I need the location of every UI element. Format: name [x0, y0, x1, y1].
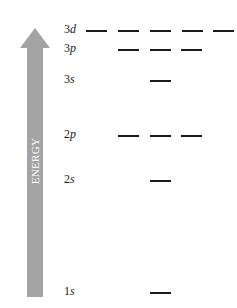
level-label-2p: 2p: [64, 128, 76, 140]
orbital-line-2p: [118, 135, 139, 137]
level-label-1s: 1s: [64, 285, 75, 297]
subshell-letter: p: [70, 127, 76, 141]
energy-arrow-head-icon: [20, 28, 50, 48]
level-label-2s: 2s: [64, 173, 75, 185]
orbital-line-3d: [213, 30, 234, 32]
level-label-3p: 3p: [64, 42, 76, 54]
orbital-line-3d: [182, 30, 203, 32]
orbital-line-3d: [118, 30, 139, 32]
subshell-letter: s: [70, 172, 75, 186]
level-label-3d: 3d: [64, 23, 76, 35]
orbital-line-3s: [150, 80, 171, 82]
orbital-line-3p: [181, 49, 202, 51]
orbital-line-1s: [150, 292, 171, 294]
orbital-line-3p: [118, 49, 139, 51]
orbital-line-2p: [150, 135, 171, 137]
subshell-letter: p: [70, 41, 76, 55]
subshell-letter: s: [70, 284, 75, 298]
orbital-line-2s: [150, 180, 171, 182]
subshell-letter: d: [70, 22, 76, 36]
orbital-line-3d: [86, 30, 107, 32]
orbital-line-2p: [181, 135, 202, 137]
energy-axis-label: ENERGY: [29, 138, 41, 184]
orbital-line-3p: [150, 49, 171, 51]
orbital-line-3d: [150, 30, 171, 32]
subshell-letter: s: [70, 72, 75, 86]
level-label-3s: 3s: [64, 73, 75, 85]
